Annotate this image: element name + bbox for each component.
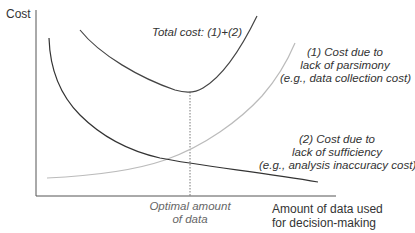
y-axis-label: Cost [6, 8, 31, 21]
optimal-amount-label: Optimal amount of data [140, 200, 240, 226]
x-axis-label: Amount of data used for decision-making [272, 202, 383, 230]
curve1-label-line1: (1) Cost due to [280, 46, 410, 59]
optimal-label-line2: of data [140, 213, 240, 226]
curve1-label-line2: lack of parsimony [280, 59, 410, 72]
curve1-label-line3: (e.g., data collection cost) [280, 72, 410, 85]
curve2-label-line2: lack of sufficiency [259, 146, 415, 159]
curve2-label-line1: (2) Cost due to [259, 133, 415, 146]
x-axis-label-line1: Amount of data used [272, 202, 383, 216]
curve2-label: (2) Cost due to lack of sufficiency (e.g… [259, 133, 415, 172]
total-cost-label: Total cost: (1)+(2) [152, 26, 242, 39]
curve1-label: (1) Cost due to lack of parsimony (e.g.,… [280, 46, 410, 85]
optimal-label-line1: Optimal amount [140, 200, 240, 213]
curve-parsimony-cost [47, 43, 295, 178]
x-axis-label-line2: for decision-making [272, 216, 383, 230]
curve2-label-line3: (e.g., analysis inaccuracy cost) [259, 159, 415, 172]
